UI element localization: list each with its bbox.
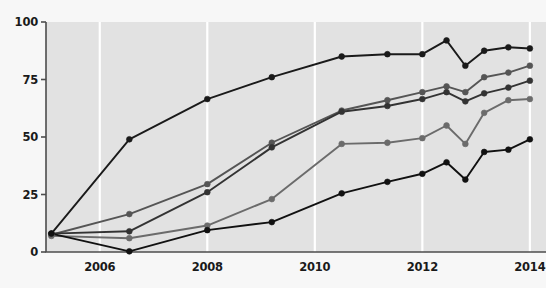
series-1-point-4 <box>269 74 275 80</box>
series-3-point-7 <box>419 96 425 102</box>
series-2-point-8 <box>444 84 450 90</box>
chart-root: 0255075100 20062008201020122014 <box>0 0 546 288</box>
series-5-point-1 <box>48 231 54 237</box>
series-3-point-8 <box>444 89 450 95</box>
x-axis-label-2010: 2010 <box>290 260 340 274</box>
line-chart-canvas <box>0 0 546 288</box>
series-1-point-3 <box>204 96 210 102</box>
series-5-point-10 <box>481 149 487 155</box>
series-4-point-4 <box>269 196 275 202</box>
plot-area-background <box>46 22 546 252</box>
series-2-point-12 <box>527 63 533 69</box>
x-axis-label-2008: 2008 <box>182 260 232 274</box>
y-axis-label-100: 100 <box>2 15 38 29</box>
series-5-point-12 <box>527 136 533 142</box>
series-5-point-9 <box>462 177 468 183</box>
series-2-point-9 <box>462 89 468 95</box>
series-3-point-12 <box>527 78 533 84</box>
series-3-point-10 <box>481 90 487 96</box>
y-axis-label-50: 50 <box>2 130 38 144</box>
y-axis-label-75: 75 <box>2 73 38 87</box>
series-5-point-5 <box>339 190 345 196</box>
series-1-point-11 <box>505 44 511 50</box>
series-4-point-6 <box>385 140 391 146</box>
series-3-point-11 <box>505 85 511 91</box>
series-1-point-9 <box>462 63 468 69</box>
series-5-point-11 <box>505 147 511 153</box>
series-2-point-6 <box>385 97 391 103</box>
series-4-point-8 <box>444 123 450 129</box>
series-5-point-4 <box>269 219 275 225</box>
series-1-point-7 <box>419 51 425 57</box>
series-4-point-11 <box>505 97 511 103</box>
series-5-point-6 <box>385 179 391 185</box>
series-3-point-4 <box>269 144 275 150</box>
series-1-point-5 <box>339 54 345 60</box>
x-axis-label-2012: 2012 <box>397 260 447 274</box>
series-3-point-5 <box>339 109 345 115</box>
series-4-point-2 <box>126 235 132 241</box>
series-4-point-12 <box>527 96 533 102</box>
series-3-point-6 <box>385 103 391 109</box>
series-1-point-6 <box>385 51 391 57</box>
y-axis-label-25: 25 <box>2 188 38 202</box>
y-axis-label-0: 0 <box>2 245 38 259</box>
series-4-point-7 <box>419 135 425 141</box>
x-axis-label-2006: 2006 <box>75 260 125 274</box>
series-1-point-12 <box>527 46 533 52</box>
series-4-point-5 <box>339 141 345 147</box>
series-2-point-10 <box>481 74 487 80</box>
series-5-point-2 <box>126 248 132 254</box>
series-2-point-2 <box>126 211 132 217</box>
series-3-point-3 <box>204 189 210 195</box>
series-1-point-2 <box>126 136 132 142</box>
series-2-point-3 <box>204 181 210 187</box>
series-2-point-7 <box>419 89 425 95</box>
series-4-point-10 <box>481 110 487 116</box>
series-5-point-7 <box>419 171 425 177</box>
series-2-point-11 <box>505 70 511 76</box>
series-3-point-9 <box>462 98 468 104</box>
series-5-point-8 <box>444 159 450 165</box>
series-3-point-2 <box>126 228 132 234</box>
series-5-point-3 <box>204 227 210 233</box>
series-1-point-10 <box>481 48 487 54</box>
x-axis-label-2014: 2014 <box>505 260 546 274</box>
series-4-point-9 <box>462 141 468 147</box>
series-1-point-8 <box>444 38 450 44</box>
